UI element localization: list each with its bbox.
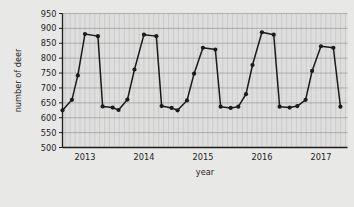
data-point-marker <box>229 106 233 110</box>
data-point-marker <box>278 105 282 109</box>
data-point-marker <box>272 33 276 37</box>
x-tick-label: 2015 <box>193 152 214 162</box>
y-tick-label: 750 <box>41 68 57 78</box>
chart-canvas: 500550600650700750800850900950 201320142… <box>0 0 354 207</box>
x-tick-label: 2014 <box>134 152 155 162</box>
data-point-marker <box>101 104 105 108</box>
data-point-marker <box>83 32 87 36</box>
x-tick-label: 2013 <box>75 152 96 162</box>
data-point-marker <box>250 63 254 67</box>
data-point-marker <box>219 105 223 109</box>
data-point-marker <box>295 104 299 108</box>
data-point-marker <box>244 92 248 96</box>
data-point-marker <box>192 72 196 76</box>
plot-area-background <box>63 14 348 148</box>
data-point-marker <box>236 105 240 109</box>
y-tick-label: 850 <box>41 38 57 48</box>
data-point-marker <box>185 98 189 102</box>
y-tick-label: 500 <box>41 143 57 153</box>
y-tick-label: 550 <box>41 128 57 138</box>
x-tick-label: 2016 <box>252 152 273 162</box>
data-point-marker <box>96 34 100 38</box>
data-point-marker <box>116 108 120 112</box>
data-point-marker <box>310 69 314 73</box>
data-point-marker <box>70 98 74 102</box>
data-point-marker <box>201 46 205 50</box>
deer-population-chart: 500550600650700750800850900950 201320142… <box>0 0 354 207</box>
data-point-marker <box>60 108 64 112</box>
data-point-marker <box>319 44 323 48</box>
x-axis-title: year <box>196 167 215 177</box>
data-point-marker <box>142 33 146 37</box>
data-point-marker <box>132 67 136 71</box>
data-point-marker <box>260 30 264 34</box>
data-point-marker <box>213 47 217 51</box>
data-point-marker <box>175 108 179 112</box>
y-tick-label: 600 <box>41 113 57 123</box>
data-point-marker <box>160 104 164 108</box>
data-point-marker <box>76 73 80 77</box>
y-tick-label: 800 <box>41 53 57 63</box>
y-tick-label: 650 <box>41 98 57 108</box>
data-point-marker <box>304 98 308 102</box>
y-axis-title: number of deer <box>13 48 23 112</box>
data-point-marker <box>125 97 129 101</box>
data-point-marker <box>154 34 158 38</box>
y-tick-label: 950 <box>41 9 57 19</box>
data-point-marker <box>288 105 292 109</box>
data-point-marker <box>111 105 115 109</box>
y-tick-label: 900 <box>41 23 57 33</box>
data-point-marker <box>170 106 174 110</box>
data-point-marker <box>338 105 342 109</box>
x-tick-label: 2017 <box>311 152 332 162</box>
data-point-marker <box>331 46 335 50</box>
y-tick-label: 700 <box>41 83 57 93</box>
